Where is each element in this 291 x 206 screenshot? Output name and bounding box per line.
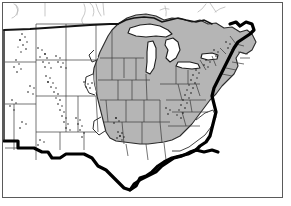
map-canvas bbox=[0, 0, 291, 206]
us-distribution-map bbox=[0, 0, 291, 206]
map-figure-page bbox=[0, 0, 291, 206]
